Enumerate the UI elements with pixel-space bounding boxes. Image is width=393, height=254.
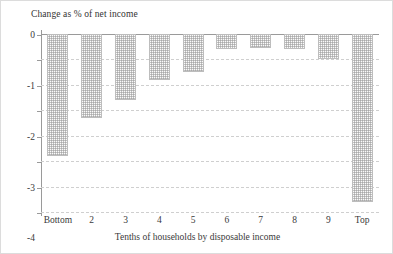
x-axis-tick-label: Top (355, 215, 370, 225)
y-axis-tick-label: -3 (27, 183, 35, 193)
x-axis-tick-label: 9 (326, 215, 331, 225)
gridline: -6 (41, 187, 379, 188)
bar (81, 34, 102, 118)
y-axis-tick-label: 0 (30, 30, 35, 40)
y-axis-tick-mark (37, 86, 41, 87)
y-axis-tick-mark (37, 137, 41, 138)
y-axis-tick-mark (37, 188, 41, 189)
x-axis-tick-label: 2 (89, 215, 94, 225)
bar (318, 34, 339, 59)
bar (216, 34, 237, 49)
bar (115, 34, 136, 100)
chart-title: Change as % of net income (31, 9, 138, 19)
plot-area: 0-1-2-3-4-5-6-7 (41, 34, 379, 212)
x-axis-tick-label: 7 (258, 215, 263, 225)
x-axis-tick-label: 8 (292, 215, 297, 225)
gridline: -4 (41, 136, 379, 137)
bar (47, 34, 68, 156)
gridline: -7 (41, 212, 379, 213)
bar (284, 34, 305, 49)
chart-figure: Change as % of net income 0-1-2-3-4-5-6-… (0, 0, 393, 254)
bar (352, 34, 373, 202)
bar (149, 34, 170, 80)
y-axis-tick-mark (37, 60, 41, 61)
x-axis-tick-label: 6 (225, 215, 230, 225)
y-axis-tick-label: -2 (27, 132, 35, 142)
x-axis-tick-label: 5 (191, 215, 196, 225)
y-axis-tick-mark (37, 35, 41, 36)
y-axis-tick-label: -1 (27, 81, 35, 91)
x-axis-tick-label: 4 (157, 215, 162, 225)
x-axis-title: Tenths of households by disposable incom… (1, 232, 393, 242)
x-axis-tick-label: 3 (123, 215, 128, 225)
gridline: -5 (41, 161, 379, 162)
bar (250, 34, 271, 48)
y-axis-tick-mark (37, 162, 41, 163)
bar (183, 34, 204, 72)
x-axis-tick-label: Bottom (44, 215, 73, 225)
y-axis-tick-mark (37, 111, 41, 112)
y-axis-tick-mark (37, 213, 41, 214)
